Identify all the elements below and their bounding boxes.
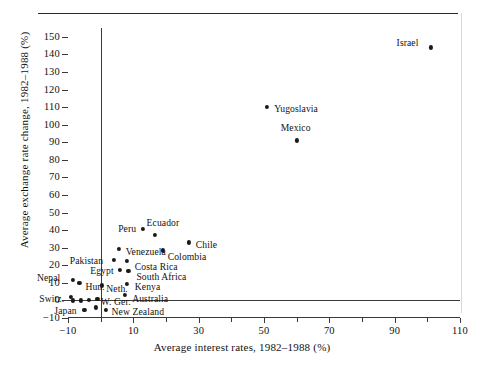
data-point-label: Ecuador [147,218,180,228]
y-tick-label: 140 [44,49,60,60]
data-point-label: Egypt [90,266,113,276]
y-tick-label: 80 [49,155,60,166]
x-tick-mark-minor [231,318,232,322]
y-tick-mark [62,160,68,161]
data-point [71,278,75,282]
data-point [265,105,269,109]
y-tick-mark [62,37,68,38]
data-point [117,246,121,250]
x-tick-mark [395,318,396,323]
data-point-label: Australia [132,294,168,304]
y-tick-mark [62,265,68,266]
y-tick-label: 120 [44,84,60,95]
y-tick-label: 90 [49,137,60,148]
data-point-label: Chile [196,240,217,250]
data-point-label: South Africa [136,272,186,282]
x-tick-mark-minor [427,318,428,322]
y-tick-mark [62,54,68,55]
y-tick-mark [62,248,68,249]
x-tick-mark [68,318,69,323]
x-tick-label: 110 [452,326,468,337]
y-tick-mark [62,213,68,214]
y-tick-label: 40 [49,225,60,236]
data-point [77,281,81,285]
y-tick-label: 130 [44,67,60,78]
x-tick-mark-minor [101,318,102,322]
y-tick-label: 50 [49,207,60,218]
data-point [118,268,122,272]
x-tick-label: 90 [389,326,400,337]
y-tick-label: 70 [49,172,60,183]
data-point [141,227,145,231]
data-point-label: Yugoslavia [274,104,318,114]
data-point-label: Peru [118,224,136,234]
x-tick-mark-minor [166,318,167,322]
data-point-label: Israel [397,38,419,48]
data-point [125,259,129,263]
y-tick-mark [62,283,68,284]
x-axis-title: Average interest rates, 1982–1988 (%) [0,341,484,353]
y-tick-label: 20 [49,260,60,271]
x-tick-label: 70 [324,326,335,337]
x-tick-label: −10 [59,326,76,337]
x-tick-mark [199,318,200,323]
data-point [103,308,107,312]
figure-container: −100102030405060708090100110120130140150… [0,0,484,367]
y-tick-mark [62,230,68,231]
x-tick-mark [133,318,134,323]
data-point [295,138,299,142]
data-point [187,240,191,244]
y-tick-mark [62,195,68,196]
y-tick-label: 150 [44,32,60,43]
right-frame-edge [461,13,462,313]
x-tick-mark-minor [362,318,363,322]
data-point-label: New Zealand [112,307,165,317]
y-tick-mark [62,107,68,108]
data-point-label: Venezuela [126,247,166,257]
data-point-label: Switz. [39,294,64,304]
y-tick-label: 30 [49,242,60,253]
x-tick-label: 30 [193,326,204,337]
y-tick-mark [62,72,68,73]
data-point-label: Nepal [37,273,60,283]
y-axis-title: Average exchange rate change, 1982–1988 … [18,0,30,290]
data-point [71,298,75,302]
data-point [126,268,130,272]
x-tick-mark [460,318,461,323]
x-tick-mark [329,318,330,323]
data-point-label: Kenya [135,282,161,292]
top-divider-rule [38,13,458,14]
x-tick-mark [264,318,265,323]
data-point [112,258,116,262]
data-point [82,308,86,312]
x-tick-label: 50 [259,326,270,337]
y-tick-mark [62,142,68,143]
data-point [94,305,98,309]
y-tick-mark [62,125,68,126]
data-point-label: Mexico [281,123,311,133]
scatter-plot-area: −100102030405060708090100110120130140150… [68,28,460,318]
data-point [152,232,156,236]
x-tick-mark-minor [297,318,298,322]
y-tick-mark [62,177,68,178]
y-tick-label: 100 [44,119,60,130]
data-point [125,282,129,286]
x-tick-label: 10 [128,326,139,337]
data-point [429,45,433,49]
data-point-label: Japan [54,306,76,316]
y-tick-mark [62,90,68,91]
data-point [79,298,83,302]
y-tick-label: 60 [49,190,60,201]
y-tick-label: 110 [44,102,60,113]
